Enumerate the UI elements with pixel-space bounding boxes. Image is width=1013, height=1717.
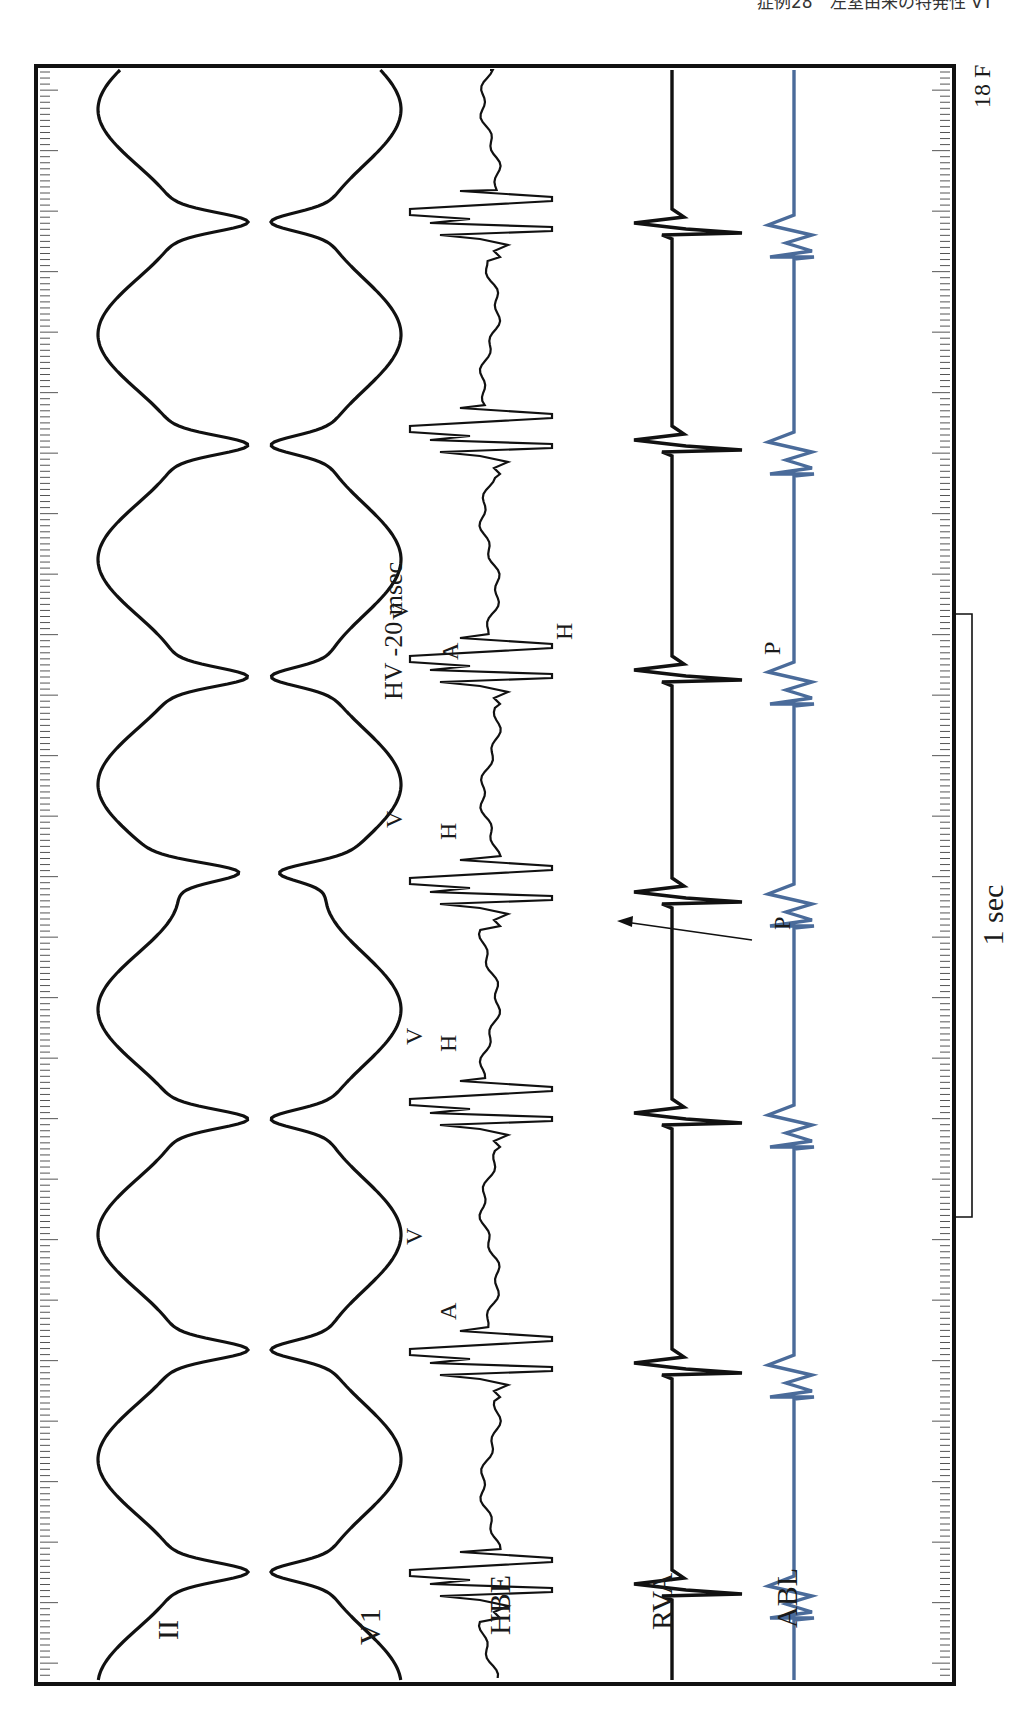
annotation-h: H [551, 623, 577, 640]
time-scale-label: 1 sec [976, 885, 1009, 946]
p-potential-arrow [617, 916, 752, 940]
lead-label-abl: ABL [770, 1568, 803, 1628]
time-ruler-right [932, 72, 950, 1675]
lead-label-hbe: HBE [483, 1575, 516, 1635]
lead-traces [98, 70, 814, 1680]
annotation-v: V [387, 602, 413, 620]
annotation-h: H [435, 823, 461, 840]
annotation-v: V [401, 1227, 427, 1245]
lead-label-rva: RVA [645, 1573, 678, 1630]
annotation-hv-20-msec: HV -20 msec [379, 562, 408, 700]
lead-labels: IIV1HBERVAABL [151, 1568, 803, 1645]
catheter-size-label: 18 F [969, 65, 995, 108]
annotation-p: P [759, 642, 785, 655]
electrogram-figure: IIV1HBERVAABL HV -20 msecVAHPVHPVHVA 18 … [0, 0, 1013, 1717]
lead-label-ii: II [151, 1620, 184, 1640]
lead-label-v1: V1 [353, 1608, 386, 1645]
time-ruler-left [40, 72, 58, 1675]
annotation-a: A [437, 642, 463, 660]
annotation-v: V [381, 810, 407, 828]
annotation-h: H [435, 1035, 461, 1052]
waveform-annotations: HV -20 msecVAHPVHPVHVA [379, 562, 795, 1320]
annotation-p: P [769, 917, 795, 930]
annotation-v: V [401, 1027, 427, 1045]
time-scale-bar [954, 614, 972, 1217]
annotation-a: A [435, 1302, 461, 1320]
